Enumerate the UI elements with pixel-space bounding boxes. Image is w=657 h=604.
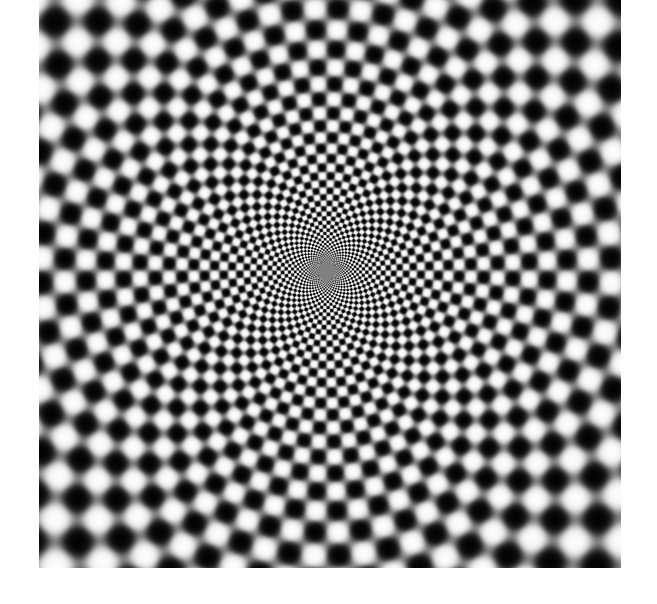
illusion-image (39, 0, 621, 568)
radial-checkerboard-pattern (39, 0, 621, 568)
